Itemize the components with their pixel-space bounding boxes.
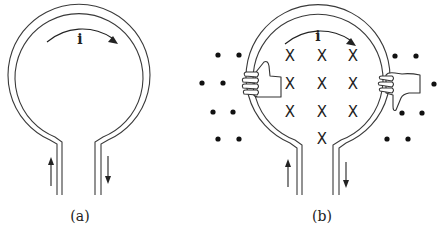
dot-icon bbox=[392, 53, 397, 58]
panel-a: i (a) bbox=[8, 4, 150, 224]
dot-icon bbox=[220, 80, 225, 85]
dot-icon bbox=[419, 110, 424, 115]
figure-canvas: i (a) i X X X X X X X X X X bbox=[0, 0, 445, 235]
x-mark-icon: X bbox=[285, 75, 295, 93]
dot-icon bbox=[236, 52, 241, 57]
dot-icon bbox=[210, 109, 215, 114]
x-mark-icon: X bbox=[348, 103, 358, 121]
x-mark-icon: X bbox=[348, 75, 358, 93]
arrowhead-icon bbox=[346, 38, 356, 46]
dot-icon bbox=[413, 53, 418, 58]
x-mark-icon: X bbox=[317, 47, 327, 65]
x-mark-icon: X bbox=[348, 47, 358, 65]
arrowhead-down-icon bbox=[105, 176, 111, 184]
dot-icon bbox=[431, 81, 436, 86]
arrowhead-icon bbox=[108, 36, 118, 44]
x-mark-icon: X bbox=[317, 130, 327, 148]
dot-icon bbox=[236, 136, 241, 141]
panel-a-label: (a) bbox=[70, 208, 89, 224]
x-mark-icon: X bbox=[317, 75, 327, 93]
current-label-b: i bbox=[315, 28, 320, 44]
x-mark-icon: X bbox=[317, 103, 327, 121]
left-hand-thumb-up-icon bbox=[242, 62, 281, 98]
dot-icon bbox=[199, 80, 204, 85]
x-mark-icon: X bbox=[285, 47, 295, 65]
field-into-page: X X X X X X X X X X bbox=[285, 47, 358, 148]
panel-b: i X X X X X X X X X X bbox=[199, 5, 436, 224]
panel-b-label: (b) bbox=[312, 208, 332, 224]
dot-icon bbox=[399, 110, 404, 115]
current-label-a: i bbox=[77, 31, 82, 47]
x-mark-icon: X bbox=[285, 103, 295, 121]
dot-icon bbox=[215, 136, 220, 141]
dot-icon bbox=[384, 136, 389, 141]
arrowhead-down-icon bbox=[343, 180, 349, 188]
arrowhead-up-icon bbox=[48, 157, 54, 165]
dot-icon bbox=[215, 52, 220, 57]
dot-icon bbox=[230, 109, 235, 114]
arrowhead-up-icon bbox=[285, 159, 291, 167]
dot-icon bbox=[405, 136, 410, 141]
